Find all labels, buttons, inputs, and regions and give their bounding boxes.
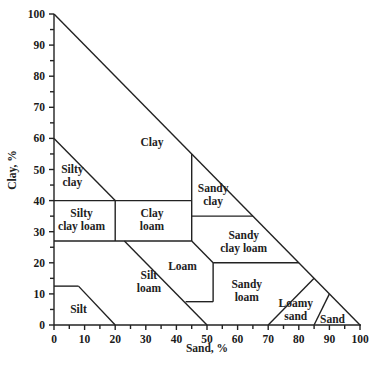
region-label-silty-clay: Siltyclay bbox=[61, 163, 84, 189]
region-label-loam: Loam bbox=[168, 260, 197, 272]
region-label-silt: Silt bbox=[70, 303, 87, 315]
x-tick-label: 40 bbox=[171, 333, 183, 345]
class-boundaries bbox=[54, 14, 360, 325]
region-label-sandy-clay: Sandyclay bbox=[198, 182, 229, 208]
y-tick-label: 50 bbox=[34, 164, 46, 176]
x-tick-label: 30 bbox=[140, 333, 152, 345]
x-tick-label: 70 bbox=[262, 333, 274, 345]
region-label-clay: Clay bbox=[140, 136, 163, 149]
y-tick-label: 40 bbox=[34, 195, 46, 207]
x-axis-title: Sand, % bbox=[186, 342, 228, 354]
x-tick-label: 80 bbox=[293, 333, 305, 345]
x-tick-label: 20 bbox=[109, 333, 121, 345]
y-tick-label: 90 bbox=[34, 39, 46, 51]
x-tick-label: 90 bbox=[324, 333, 336, 345]
x-tick-label: 60 bbox=[232, 333, 244, 345]
region-label-sandy-loam: Sandyloam bbox=[231, 278, 262, 303]
y-tick-label: 100 bbox=[28, 8, 46, 20]
y-axis-title: Clay, % bbox=[6, 150, 19, 190]
x-tick-label: 100 bbox=[351, 333, 369, 345]
region-label-loamy-sand: Loamysand bbox=[278, 297, 313, 322]
y-tick-label: 70 bbox=[34, 101, 46, 113]
x-tick-label: 10 bbox=[79, 333, 91, 345]
soil-texture-triangle: 0102030405060708090100010203040506070809… bbox=[0, 0, 380, 372]
region-label-sandy-clay-loam: Sandyclay loam bbox=[220, 229, 267, 255]
y-tick-label: 80 bbox=[34, 70, 46, 82]
region-label-silty-clay-loam: Siltyclay loam bbox=[58, 207, 105, 233]
y-tick-label: 10 bbox=[34, 288, 46, 300]
y-tick-label: 60 bbox=[34, 132, 46, 144]
x-tick-label: 0 bbox=[51, 333, 57, 345]
y-tick-label: 20 bbox=[34, 257, 46, 269]
region-label-sand: Sand bbox=[320, 313, 346, 325]
region-label-silt-loam: Siltloam bbox=[137, 269, 162, 294]
y-tick-label: 30 bbox=[34, 226, 46, 238]
y-tick-label: 0 bbox=[39, 319, 45, 331]
region-label-clay-loam: Clayloam bbox=[140, 207, 165, 232]
